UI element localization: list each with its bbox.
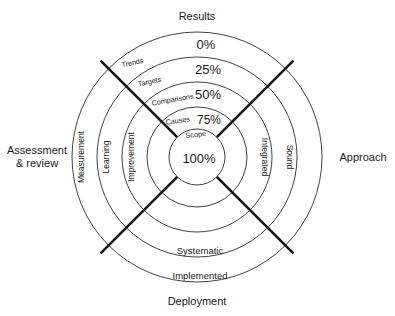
label-results: Results [179,10,216,22]
label-sound: Sound [285,145,295,170]
label-comparisons: Comparisons [151,91,195,107]
label-deployment: Deployment [168,295,227,307]
label-percent-25: 25% [195,62,221,77]
label-percent-50: 50% [195,87,221,102]
label-improvement: Improvement [126,132,136,182]
radar-diagram: Results Deployment Assessment & review A… [0,0,395,316]
label-assessment-line2: & review [16,157,58,169]
label-approach: Approach [339,151,386,163]
label-measurement: Measurement [76,130,86,183]
label-systematic: Systematic [177,245,224,256]
label-scope: Scope [185,129,206,140]
label-learning: Learning [101,140,111,173]
label-percent-0: 0% [197,37,216,52]
label-targets: Targets [137,75,162,89]
axis-lower-left [101,177,178,254]
label-percent-100: 100% [182,151,216,166]
label-percent-75: 75% [197,113,221,127]
label-integrated: Integrated [260,138,270,177]
label-assessment-line1: Assessment [7,144,67,156]
label-trends: Trends [121,56,145,69]
axis-lower-right [217,177,294,254]
label-implemented: Implemented [173,270,228,281]
axis-upper-right [217,61,294,138]
diagram-canvas: Results Deployment Assessment & review A… [0,0,395,316]
